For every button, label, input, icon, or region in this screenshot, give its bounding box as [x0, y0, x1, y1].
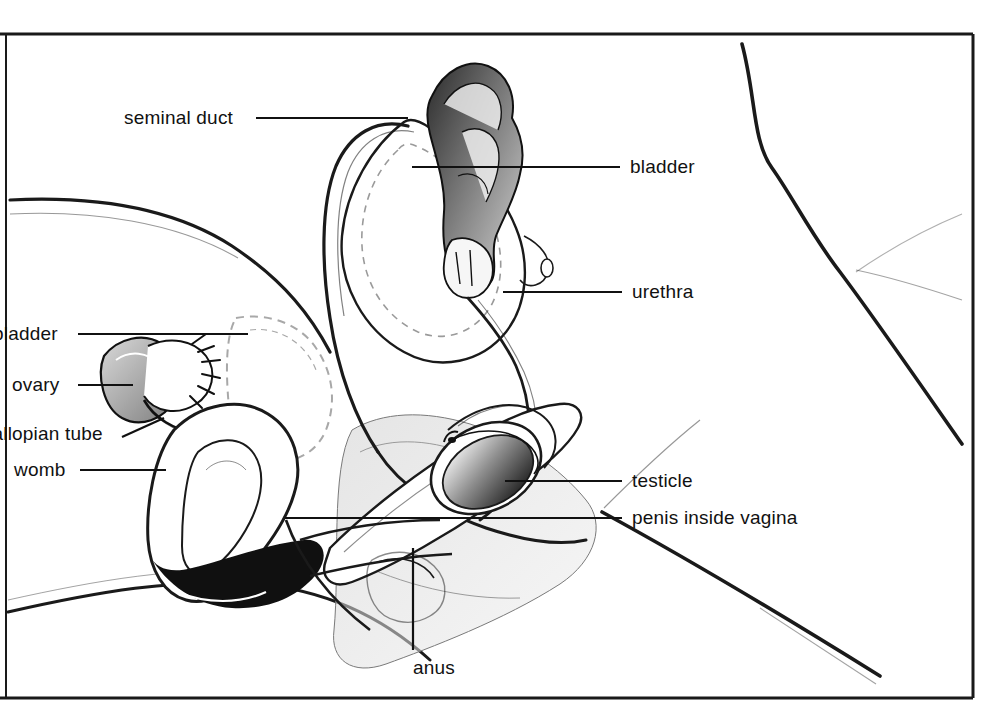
- label-testicle: testicle: [632, 471, 693, 490]
- label-penis-inside-vagina: penis inside vagina: [632, 508, 797, 527]
- label-ovary: ovary: [12, 375, 59, 394]
- figure-canvas: seminal duct bladder urethra bladder ova…: [0, 0, 999, 713]
- label-seminal-duct: seminal duct: [124, 108, 233, 127]
- label-anus: anus: [413, 658, 455, 677]
- label-bladder-male: bladder: [630, 157, 695, 176]
- label-bladder-female: bladder: [0, 324, 58, 343]
- label-fallopian-tube: fallopian tube: [0, 424, 103, 443]
- label-womb: womb: [14, 460, 65, 479]
- label-urethra: urethra: [632, 282, 694, 301]
- womb: [148, 404, 324, 608]
